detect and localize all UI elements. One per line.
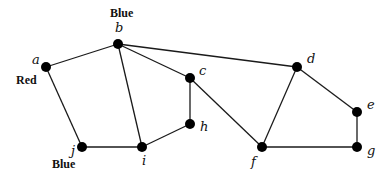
edge-c-f (190, 78, 262, 147)
edge-d-f (262, 67, 297, 147)
vertex-g (352, 142, 362, 152)
vertex-h (185, 119, 195, 129)
edge-b-i (118, 44, 142, 147)
vertex-i (137, 142, 147, 152)
color-label-b: Blue (110, 6, 134, 20)
color-label-j: Blue (52, 157, 76, 171)
vertex-label-c: c (199, 63, 207, 78)
vertex-label-a: a (32, 52, 40, 67)
vertex-label-j: j (68, 143, 75, 158)
edge-b-d (118, 44, 297, 67)
vertex-b (113, 39, 123, 49)
graph-diagram: abcdefghijBlueRedBlue (0, 0, 392, 182)
edge-a-b (46, 44, 118, 67)
vertex-label-g: g (367, 143, 375, 158)
vertex-label-i: i (142, 153, 146, 168)
vertex-label-e: e (367, 97, 375, 112)
vertex-c (185, 73, 195, 83)
vertex-d (292, 62, 302, 72)
vertex-f (257, 142, 267, 152)
vertex-e (352, 107, 362, 117)
edge-h-i (142, 124, 190, 147)
vertex-a (41, 62, 51, 72)
color-label-a: Red (16, 73, 37, 87)
vertex-j (77, 142, 87, 152)
vertex-label-f: f (250, 154, 258, 169)
labels-group: abcdefghijBlueRedBlue (16, 6, 375, 171)
edge-d-e (297, 67, 357, 112)
edge-a-j (46, 67, 82, 147)
vertex-label-h: h (200, 119, 208, 134)
vertex-label-d: d (307, 51, 315, 66)
vertex-label-b: b (115, 20, 123, 35)
